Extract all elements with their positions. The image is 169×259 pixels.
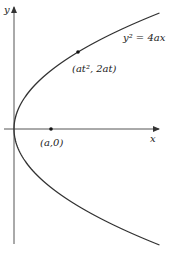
y-axis-label: y bbox=[3, 4, 10, 15]
equation-label: y² = 4ax bbox=[122, 32, 166, 43]
focus-point-dot bbox=[49, 127, 53, 131]
parametric-point-dot bbox=[76, 50, 80, 54]
parametric-point-label: (at², 2at) bbox=[72, 63, 117, 74]
x-axis-label: x bbox=[150, 133, 156, 144]
focus-point-label: (a,0) bbox=[40, 137, 63, 148]
parabola-diagram: y x y² = 4ax (at², 2at) (a,0) bbox=[0, 0, 169, 259]
